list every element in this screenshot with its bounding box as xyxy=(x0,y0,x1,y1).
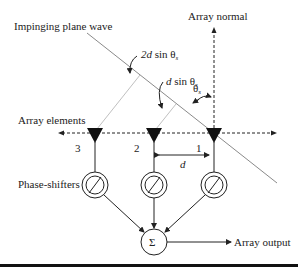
array-output-label: Array output xyxy=(234,236,291,248)
d-sin-arrow xyxy=(159,82,163,108)
bottom-rule xyxy=(0,264,298,267)
combine-line-1 xyxy=(165,195,205,232)
element-2-antenna-icon xyxy=(146,128,162,143)
phase-shifter-3 xyxy=(82,172,108,198)
projection-line-2 xyxy=(156,104,176,129)
theta-arc-start xyxy=(193,99,199,103)
d-sin-label: d sin θs xyxy=(166,75,198,89)
phase-shifter-1 xyxy=(201,172,227,198)
element-1-antenna-icon xyxy=(206,128,222,143)
phase-shifters-label: Phase-shifters xyxy=(18,178,80,190)
array-axis-right-arrow xyxy=(271,131,277,136)
phase-shifter-2 xyxy=(141,172,167,198)
array-elements-label: Array elements xyxy=(18,114,86,126)
projection-line-3 xyxy=(97,75,140,129)
phased-array-diagram: 3 2 1 d Σ Array output θs 2d sin θs d si… xyxy=(0,0,298,268)
combine-line-3 xyxy=(104,195,144,232)
array-normal-arrow xyxy=(212,27,217,33)
array-axis-left-arrow xyxy=(58,131,64,136)
array-normal-label: Array normal xyxy=(188,10,248,22)
theta-arc xyxy=(197,96,211,101)
two-d-sin-arrow xyxy=(130,56,137,73)
sum-symbol: Σ xyxy=(149,236,155,248)
element-2-label: 2 xyxy=(134,142,140,154)
spacing-label: d xyxy=(180,158,186,170)
element-3-antenna-icon xyxy=(87,128,103,143)
element-1-label: 1 xyxy=(196,142,202,154)
impinging-wave-label: Impinging plane wave xyxy=(14,20,112,32)
two-d-sin-label: 2d sin θs xyxy=(141,48,179,62)
element-3-label: 3 xyxy=(75,142,81,154)
